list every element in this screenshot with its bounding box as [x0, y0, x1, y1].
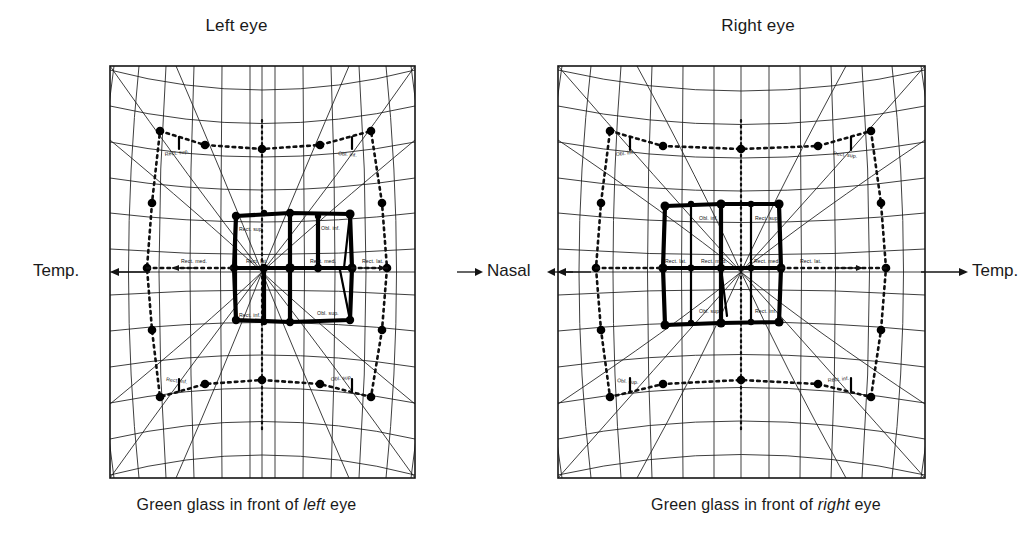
label-obl-sup-outer: Obl. sup.	[330, 374, 352, 382]
axis-label-temporal-left: Temp.	[33, 261, 79, 281]
label-rect-med-axis: Rect. med.	[310, 258, 336, 264]
label-rect-inf-inner: Rect. inf.	[239, 312, 260, 318]
panel-left-eye: Left eye	[0, 0, 513, 541]
temp-arrow-right	[921, 268, 968, 276]
hess-chart-left: Rect. sup. Obl. inf. Rect. lat. Rect. in…	[0, 0, 513, 500]
caption-prefix-left: Green glass in front of	[137, 496, 304, 513]
nasal-arrow-right	[557, 268, 591, 276]
panel-right-eye: Right eye	[513, 0, 1033, 541]
label-rect-inf-inner: Rect. inf.	[755, 308, 776, 314]
label-rect-sup-outer: Rect. sup.	[833, 150, 858, 159]
label-obl-sup-inner: Obl. sup.	[699, 308, 721, 314]
caption-emphasis-right: right	[818, 496, 850, 513]
label-rect-med-inner: Rect. med.	[754, 258, 780, 264]
label-obl-inf-outer: Obl. inf.	[338, 150, 357, 158]
label-rect-lat-inner: Rect. lat.	[665, 258, 686, 264]
caption-prefix-right: Green glass in front of	[651, 496, 818, 513]
label-obl-sup-inner: Obl. sup.	[317, 310, 339, 316]
caption-suffix-right: eye	[850, 496, 881, 513]
label-rect-sup-inner: Rect. sup.	[239, 226, 263, 232]
panel-caption-left: Green glass in front of left eye	[0, 496, 503, 514]
inner-direction-arrows-right	[835, 265, 863, 271]
label-rect-inf-outer: Rect. inf.	[166, 376, 188, 385]
caption-suffix-left: eye	[325, 496, 356, 513]
label-rect-sup-inner: Rect. sup.	[755, 215, 779, 221]
label-rect-inf-outer: Rect. inf.	[827, 375, 849, 383]
label-rect-med-axis: Rect. med.	[701, 258, 727, 264]
axis-label-temporal-right: Temp.	[972, 261, 1018, 281]
label-obl-inf-outer: Obl. inf.	[615, 149, 634, 157]
caption-emphasis-left: left	[303, 496, 325, 513]
label-rect-lat-outer: Rect. lat.	[800, 258, 821, 264]
label-rect-med-inner: Rect. med.	[181, 258, 207, 264]
label-obl-inf-inner: Obl. inf.	[699, 215, 718, 221]
figure-root: Left eye	[0, 0, 1033, 541]
label-rect-sup-outer: Rect. sup.	[164, 148, 189, 157]
label-obl-inf-inner: Obl. inf.	[321, 225, 340, 231]
hess-chart-right: Obl. inf. Rect. sup. Rect. lat. Obl. sup…	[513, 0, 1033, 500]
label-rect-lat-inner: Rect. lat.	[246, 258, 267, 264]
label-obl-sup-outer: Obl. sup.	[617, 377, 639, 385]
panel-caption-right: Green glass in front of right eye	[506, 496, 1026, 514]
label-rect-lat-outer: Rect. lat.	[362, 258, 383, 264]
